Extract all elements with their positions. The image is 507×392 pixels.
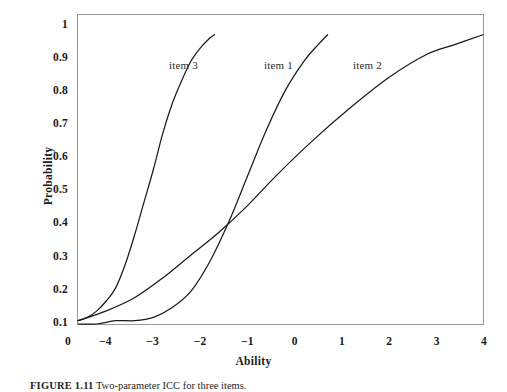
series-label-item-2: item 2 [353, 59, 382, 71]
y-axis-tick-label: 0.1 [53, 316, 68, 328]
y-axis-tick-label: 0.3 [53, 250, 68, 262]
y-axis-tick-label: 0.5 [53, 183, 68, 195]
y-axis-tick-label: 0.8 [53, 84, 68, 96]
y-axis-tick-label: 0.6 [53, 150, 68, 162]
figure-root: Probability 0.10.20.30.40.50.60.70.80.91… [0, 0, 507, 392]
curve-item-3 [78, 35, 215, 321]
x-axis-tick-label: 4 [481, 334, 487, 348]
x-axis-tick-labels: 0−4−3−2−101234 [0, 334, 507, 352]
y-axis-tick-label: 0.7 [53, 117, 68, 129]
x-axis-tick-label: −1 [241, 334, 254, 348]
x-axis-tick-label: 3 [434, 334, 440, 348]
x-axis-tick-label: −2 [194, 334, 207, 348]
y-axis-tick-label: 1 [62, 18, 68, 30]
x-axis-title: Ability [0, 355, 507, 367]
series-label-item-3: item 3 [169, 59, 198, 71]
x-axis-tick-label: 1 [339, 334, 345, 348]
x-axis-origin-label: 0 [65, 334, 71, 348]
plot-area: item 3 item 1 item 2 [77, 14, 484, 325]
x-axis-tick-label: 0 [292, 334, 298, 348]
curve-item-2 [78, 35, 483, 321]
figure-caption: FIGURE 1.11 Two-parameter ICC for three … [30, 380, 490, 392]
curve-group [78, 35, 483, 325]
x-axis-tick-label: 2 [386, 334, 392, 348]
curve-item-1 [78, 35, 328, 325]
x-axis-tick-label: −3 [146, 334, 159, 348]
y-axis-tick-label: 0.9 [53, 51, 68, 63]
series-label-item-1: item 1 [264, 59, 293, 71]
y-axis-tick-label: 0.2 [53, 283, 68, 295]
y-axis-tick-label: 0.4 [53, 216, 68, 228]
figure-caption-text: Two-parameter ICC for three items. [96, 380, 247, 391]
x-axis-tick-label: −4 [99, 334, 112, 348]
figure-caption-number: FIGURE 1.11 [30, 380, 93, 391]
